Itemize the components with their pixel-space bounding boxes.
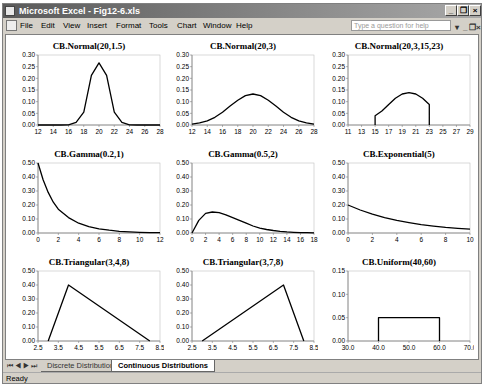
chart-sheet[interactable]: CB.Normal(20,1.5)0.000.050.100.150.200.2…: [5, 34, 479, 360]
svg-text:26: 26: [141, 128, 149, 135]
doc-restore-icon[interactable]: ❐: [469, 20, 476, 35]
svg-text:0.15: 0.15: [22, 86, 35, 93]
svg-text:0.00: 0.00: [22, 229, 35, 236]
svg-text:0.20: 0.20: [22, 309, 35, 316]
svg-text:0.50: 0.50: [332, 159, 345, 166]
menu-view[interactable]: View: [63, 18, 80, 33]
svg-text:50.0: 50.0: [403, 344, 416, 351]
svg-text:0.05: 0.05: [332, 314, 345, 321]
menu-insert[interactable]: Insert: [87, 18, 107, 33]
svg-text:14: 14: [50, 128, 58, 135]
svg-text:20: 20: [95, 128, 103, 135]
svg-text:2: 2: [57, 236, 61, 243]
doc-minimize-icon[interactable]: _: [463, 20, 467, 35]
menu-format[interactable]: Format: [116, 18, 141, 33]
svg-text:29: 29: [466, 128, 474, 135]
svg-text:18: 18: [310, 236, 318, 243]
svg-text:11: 11: [345, 128, 352, 135]
tab-continuous-distributions[interactable]: Continuous Distributions: [111, 360, 215, 372]
chart-cb-gamma-0-5-2[interactable]: CB.Gamma(0.5,2)0.000.100.200.300.400.500…: [168, 149, 318, 253]
svg-text:7.5: 7.5: [135, 344, 144, 351]
svg-text:16: 16: [297, 236, 305, 243]
svg-text:8: 8: [244, 236, 248, 243]
svg-text:0.05: 0.05: [176, 110, 189, 117]
svg-text:6.5: 6.5: [115, 344, 124, 351]
svg-text:70.0: 70.0: [464, 344, 474, 351]
svg-text:10: 10: [256, 236, 264, 243]
chart-plot: 0.000.100.200.300.400.502.53.54.55.56.57…: [14, 257, 164, 361]
svg-text:0.20: 0.20: [176, 201, 189, 208]
svg-text:0.10: 0.10: [22, 215, 35, 222]
svg-text:12: 12: [34, 128, 42, 135]
minimize-icon[interactable]: _: [445, 5, 457, 16]
svg-text:0.20: 0.20: [332, 75, 345, 82]
menu-chart[interactable]: Chart: [177, 18, 197, 33]
workbook-icon[interactable]: [6, 20, 17, 31]
svg-text:3.5: 3.5: [54, 344, 63, 351]
svg-text:0.10: 0.10: [332, 291, 345, 298]
restore-icon[interactable]: ❐: [457, 5, 469, 16]
svg-text:0.10: 0.10: [176, 323, 189, 330]
svg-text:4.5: 4.5: [228, 344, 237, 351]
svg-text:0.15: 0.15: [332, 86, 345, 93]
svg-text:27: 27: [453, 128, 461, 135]
tab-scroll-buttons[interactable]: ⏮◀▶⏭: [7, 360, 39, 372]
chart-cb-normal-20-1-5[interactable]: CB.Normal(20,1.5)0.000.050.100.150.200.2…: [14, 41, 164, 145]
svg-text:0.40: 0.40: [22, 173, 35, 180]
svg-text:0: 0: [346, 236, 350, 243]
svg-text:26: 26: [295, 128, 303, 135]
chart-cb-exponential-5[interactable]: CB.Exponential(5)0.000.100.200.300.400.5…: [324, 149, 474, 253]
svg-text:25: 25: [439, 128, 447, 135]
help-search-input[interactable]: Type a question for help: [351, 20, 451, 31]
svg-text:24: 24: [280, 128, 288, 135]
svg-text:0.15: 0.15: [332, 267, 345, 274]
chart-plot: 0.000.100.200.300.400.502.53.54.55.56.57…: [168, 257, 318, 361]
svg-text:8.5: 8.5: [155, 344, 164, 351]
svg-text:0.30: 0.30: [176, 51, 189, 58]
svg-text:0.40: 0.40: [176, 281, 189, 288]
svg-text:0.10: 0.10: [332, 215, 345, 222]
chart-plot: 0.000.100.200.300.400.50024681012141618: [168, 149, 318, 253]
svg-text:4: 4: [395, 236, 399, 243]
svg-text:0.30: 0.30: [332, 187, 345, 194]
svg-text:18: 18: [234, 128, 242, 135]
chart-cb-triangular-3-4-8[interactable]: CB.Triangular(3,4,8)0.000.100.200.300.40…: [14, 257, 164, 361]
chart-cb-normal-20-3[interactable]: CB.Normal(20,3)0.000.050.100.150.200.250…: [168, 41, 318, 145]
svg-text:0.00: 0.00: [176, 229, 189, 236]
svg-text:14: 14: [283, 236, 291, 243]
svg-text:7.5: 7.5: [289, 344, 298, 351]
chart-cb-triangular-3-7-8[interactable]: CB.Triangular(3,7,8)0.000.100.200.300.40…: [168, 257, 318, 361]
svg-text:18: 18: [80, 128, 88, 135]
svg-text:0.30: 0.30: [332, 51, 345, 58]
chart-cb-uniform-40-60[interactable]: CB.Uniform(40,60)0.000.050.100.1530.040.…: [324, 257, 474, 361]
menu-window[interactable]: Window: [203, 18, 231, 33]
doc-close-icon[interactable]: ×: [476, 20, 481, 35]
svg-text:0.00: 0.00: [332, 121, 345, 128]
menu-tools[interactable]: Tools: [149, 18, 168, 33]
svg-text:10: 10: [466, 236, 474, 243]
svg-text:0.05: 0.05: [22, 110, 35, 117]
svg-text:60.0: 60.0: [433, 344, 446, 351]
svg-text:12: 12: [188, 128, 196, 135]
chart-plot: 0.000.050.100.150.200.250.30121416182022…: [168, 41, 318, 145]
excel-app-icon: [5, 6, 15, 16]
menu-file[interactable]: File: [20, 18, 33, 33]
svg-text:0.20: 0.20: [22, 201, 35, 208]
svg-text:17: 17: [385, 128, 393, 135]
chart-cb-gamma-0-2-1[interactable]: CB.Gamma(0.2,1)0.000.100.200.300.400.500…: [14, 149, 164, 253]
menu-help[interactable]: Help: [236, 18, 252, 33]
svg-text:5.5: 5.5: [248, 344, 257, 351]
close-icon[interactable]: ×: [469, 5, 481, 16]
svg-text:21: 21: [412, 128, 420, 135]
svg-text:0.10: 0.10: [22, 98, 35, 105]
svg-text:0.20: 0.20: [22, 75, 35, 82]
svg-text:0.50: 0.50: [22, 267, 35, 274]
svg-text:13: 13: [358, 128, 366, 135]
svg-text:2: 2: [371, 236, 375, 243]
svg-text:0.30: 0.30: [22, 51, 35, 58]
chart-plot: 0.000.100.200.300.400.500246810: [324, 149, 474, 253]
svg-text:8.5: 8.5: [309, 344, 318, 351]
menu-edit[interactable]: Edit: [41, 18, 55, 33]
chart-cb-normal-20-3-15-23[interactable]: CB.Normal(20,3,15,23)0.000.050.100.150.2…: [324, 41, 474, 145]
help-dropdown-icon[interactable]: ▾: [455, 20, 459, 35]
